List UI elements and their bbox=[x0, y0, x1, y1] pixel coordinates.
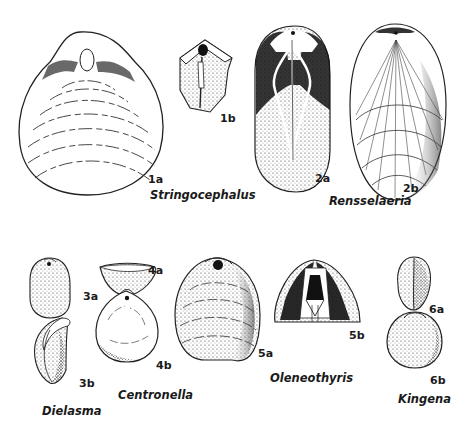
genus-label-rensselaeria: Rensselaeria bbox=[329, 196, 412, 208]
panel-label-6b: 6b bbox=[430, 375, 446, 386]
genus-label-dielasma: Dielasma bbox=[42, 406, 102, 418]
panel-label-6a: 6a bbox=[429, 304, 444, 315]
genus-label-kingena: Kingena bbox=[398, 394, 451, 406]
panel-label-5a: 5a bbox=[258, 348, 273, 359]
panel-label-4b: 4b bbox=[156, 360, 172, 371]
panel-label-2b: 2b bbox=[403, 183, 419, 194]
panel-label-5b: 5b bbox=[349, 330, 365, 341]
panel-label-1a: 1a bbox=[148, 174, 163, 185]
genus-label-stringocephalus: Stringocephalus bbox=[150, 190, 255, 202]
panel-label-3a: 3a bbox=[83, 291, 98, 302]
oleneothyris-shell-5a bbox=[175, 258, 260, 361]
genus-label-centronella: Centronella bbox=[118, 390, 193, 402]
fossil-illustrations bbox=[0, 0, 466, 428]
panel-label-4a: 4a bbox=[148, 265, 163, 276]
rensselaeria-interior-2a bbox=[255, 26, 330, 192]
centronella-shell-4b bbox=[96, 290, 158, 363]
dielasma-shell-3a bbox=[30, 258, 70, 318]
kingena-shell-6a bbox=[398, 257, 431, 310]
panel-label-3b: 3b bbox=[79, 378, 95, 389]
panel-label-1b: 1b bbox=[220, 113, 236, 124]
dielasma-shell-3b bbox=[35, 318, 70, 383]
stringocephalus-interior-1b bbox=[180, 40, 232, 112]
genus-label-oleneothyris: Oleneothyris bbox=[270, 373, 353, 385]
rensselaeria-shell-2b bbox=[350, 24, 446, 200]
kingena-shell-6b bbox=[387, 312, 442, 368]
panel-label-2a: 2a bbox=[315, 173, 330, 184]
stringocephalus-shell-1a bbox=[19, 32, 163, 195]
oleneothyris-interior-5b bbox=[275, 260, 360, 322]
brachiopod-figure-plate: 1a 1b 2a 2b 3a 3b 4a 4b 5a 5b 6a 6b Stri… bbox=[0, 0, 466, 428]
